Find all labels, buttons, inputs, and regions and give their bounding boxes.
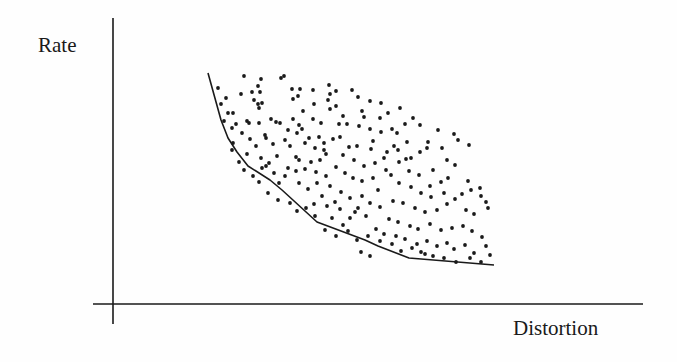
data-point	[456, 138, 460, 142]
data-point	[283, 138, 287, 142]
data-point	[306, 187, 310, 191]
data-point	[450, 226, 454, 230]
data-point	[409, 185, 413, 189]
data-point	[398, 106, 402, 110]
data-point	[303, 167, 307, 171]
data-point	[431, 168, 435, 172]
data-point	[277, 181, 281, 185]
data-point	[395, 131, 399, 135]
data-point	[436, 128, 440, 132]
data-point	[326, 98, 330, 102]
data-point	[419, 250, 423, 254]
data-point	[328, 92, 332, 96]
data-point	[296, 94, 300, 98]
data-point	[428, 222, 432, 226]
data-point	[442, 191, 446, 195]
data-point	[405, 140, 409, 144]
data-point	[256, 102, 260, 106]
data-point	[266, 191, 270, 195]
data-point	[369, 147, 373, 151]
data-point	[356, 95, 360, 99]
data-point	[322, 141, 326, 145]
data-point	[348, 196, 352, 200]
data-point	[352, 158, 356, 162]
data-point	[382, 156, 386, 160]
data-point	[429, 195, 433, 199]
data-point	[425, 239, 429, 243]
data-point	[396, 220, 400, 224]
data-point	[341, 114, 345, 118]
data-point	[339, 190, 343, 194]
data-point	[379, 130, 383, 134]
data-point	[371, 139, 375, 143]
data-point	[234, 122, 238, 126]
data-point	[331, 137, 335, 141]
data-point	[360, 109, 364, 113]
data-point	[334, 104, 338, 108]
data-point	[226, 111, 230, 115]
data-point	[452, 247, 456, 251]
data-point	[362, 115, 366, 119]
data-point	[297, 181, 301, 185]
data-point	[250, 90, 254, 94]
data-point	[283, 174, 287, 178]
data-point	[314, 170, 318, 174]
data-point	[445, 241, 449, 245]
data-point	[466, 179, 470, 183]
data-point	[311, 117, 315, 121]
data-point	[348, 216, 352, 220]
data-point	[341, 223, 345, 227]
data-point	[224, 96, 228, 100]
data-point	[407, 169, 411, 173]
data-point	[240, 131, 244, 135]
data-point	[390, 242, 394, 246]
data-point	[295, 131, 299, 135]
data-point	[397, 160, 401, 164]
data-point	[411, 116, 415, 120]
data-point	[301, 109, 305, 113]
data-point	[239, 92, 243, 96]
data-point	[362, 164, 366, 168]
data-point	[479, 260, 483, 264]
data-point	[435, 244, 439, 248]
data-point	[286, 166, 290, 170]
data-point	[259, 156, 263, 160]
data-point	[408, 224, 412, 228]
data-point	[454, 260, 458, 264]
data-point	[237, 160, 241, 164]
data-point	[312, 102, 316, 106]
data-point	[389, 173, 393, 177]
data-point	[378, 239, 382, 243]
data-point	[478, 186, 482, 190]
data-point	[286, 128, 290, 132]
data-point	[337, 122, 341, 126]
data-point	[318, 158, 322, 162]
data-point	[384, 168, 388, 172]
data-point	[254, 144, 258, 148]
data-point	[376, 188, 380, 192]
data-point	[439, 228, 443, 232]
data-point	[291, 97, 295, 101]
data-point	[423, 210, 427, 214]
data-point	[355, 144, 359, 148]
data-point	[488, 253, 492, 257]
data-point	[469, 188, 473, 192]
data-point	[368, 99, 372, 103]
data-point	[313, 214, 317, 218]
data-point	[327, 83, 331, 87]
data-point	[300, 127, 304, 131]
data-point	[242, 74, 246, 78]
data-point	[274, 120, 278, 124]
data-point	[267, 161, 271, 165]
data-point	[247, 121, 251, 125]
data-point	[307, 136, 311, 140]
data-point	[366, 234, 370, 238]
data-point	[360, 179, 364, 183]
data-point	[319, 121, 323, 125]
data-point	[297, 158, 301, 162]
data-point	[403, 122, 407, 126]
data-point	[440, 146, 444, 150]
data-point	[346, 229, 350, 233]
data-point	[309, 160, 313, 164]
data-point	[338, 135, 342, 139]
